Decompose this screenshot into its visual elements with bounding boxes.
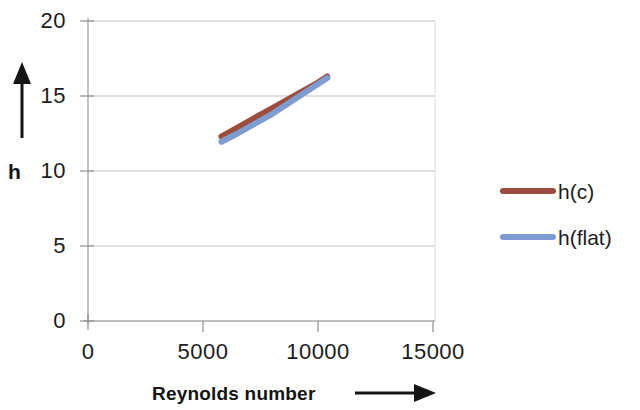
legend-label-h-c: h(c) bbox=[558, 181, 594, 202]
x-axis-arrow-icon bbox=[355, 384, 436, 402]
series-group bbox=[221, 77, 327, 142]
x-tick-label-10000: 10000 bbox=[273, 341, 363, 363]
y-tick-label-5: 5 bbox=[10, 235, 66, 257]
chart-container: 20 15 10 5 0 h 0 5000 10000 15000 Reynol… bbox=[0, 0, 640, 410]
x-axis-title: Reynolds number bbox=[152, 384, 315, 403]
series-line-h-flat bbox=[221, 78, 327, 142]
x-tick-label-5000: 5000 bbox=[158, 341, 248, 363]
x-tick-label-0: 0 bbox=[43, 341, 133, 363]
x-axis-ticks bbox=[88, 314, 433, 332]
x-tick-label-15000: 15000 bbox=[388, 341, 478, 363]
legend-swatches bbox=[503, 191, 553, 237]
gridlines bbox=[88, 21, 435, 246]
y-axis-ticks bbox=[80, 21, 94, 321]
legend-label-h-flat: h(flat) bbox=[558, 227, 612, 248]
y-tick-label-20: 20 bbox=[10, 10, 66, 32]
y-axis-title: h bbox=[8, 161, 21, 182]
y-tick-label-15: 15 bbox=[10, 85, 66, 107]
y-tick-label-0: 0 bbox=[10, 310, 66, 332]
